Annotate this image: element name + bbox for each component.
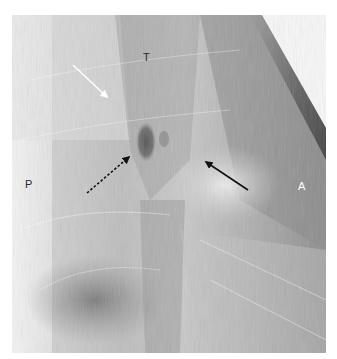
label-anterior: A	[298, 181, 305, 192]
radiograph-figure: T P A	[0, 0, 337, 359]
xray-image	[0, 0, 337, 359]
label-posterior: P	[25, 179, 32, 190]
label-trachea: T	[143, 52, 150, 63]
